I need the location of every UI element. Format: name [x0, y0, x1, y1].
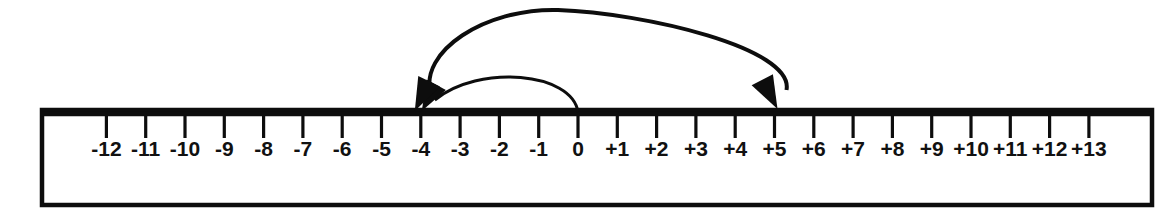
tick-label-plus9: +9 [920, 137, 944, 160]
tick-label-plus2: +2 [645, 137, 669, 160]
tick-label-minus10: -10 [170, 137, 200, 160]
tick-label-minus1: -1 [529, 137, 548, 160]
tick-label-plus7: +7 [841, 137, 865, 160]
tick-label-plus11: +11 [993, 137, 1028, 160]
tick-label-plus4: +4 [723, 137, 747, 160]
tick-label-plus5: +5 [763, 137, 787, 160]
tick-label-minus4: -4 [411, 137, 430, 160]
tick-label-minus6: -6 [333, 137, 352, 160]
tick-label-plus10: +10 [953, 137, 989, 160]
tick-label-minus2: -2 [490, 137, 509, 160]
small-jump-arc [435, 77, 578, 112]
jump-arcs-group [415, 10, 787, 112]
tick-label-minus12: -12 [91, 137, 121, 160]
tick-label-0: 0 [572, 137, 584, 160]
tick-label-plus12: +12 [1032, 137, 1068, 160]
large-jump-arc [429, 10, 786, 94]
tick-label-plus6: +6 [802, 137, 826, 160]
large-arc-arrowhead-right [752, 74, 778, 109]
tick-label-minus8: -8 [254, 137, 273, 160]
tick-label-plus3: +3 [684, 137, 708, 160]
tick-label-minus7: -7 [294, 137, 313, 160]
tick-label-plus1: +1 [605, 137, 629, 160]
tick-label-minus3: -3 [451, 137, 470, 160]
tick-label-minus11: -11 [131, 137, 161, 160]
tick-label-minus9: -9 [215, 137, 234, 160]
tick-label-plus8: +8 [880, 137, 904, 160]
tick-label-minus5: -5 [372, 137, 391, 160]
number-line-diagram: -12-11-10-9-8-7-6-5-4-3-2-10+1+2+3+4+5+6… [0, 0, 1173, 215]
number-line-canvas: -12-11-10-9-8-7-6-5-4-3-2-10+1+2+3+4+5+6… [0, 0, 1173, 215]
tick-label-plus13: +13 [1071, 137, 1107, 160]
